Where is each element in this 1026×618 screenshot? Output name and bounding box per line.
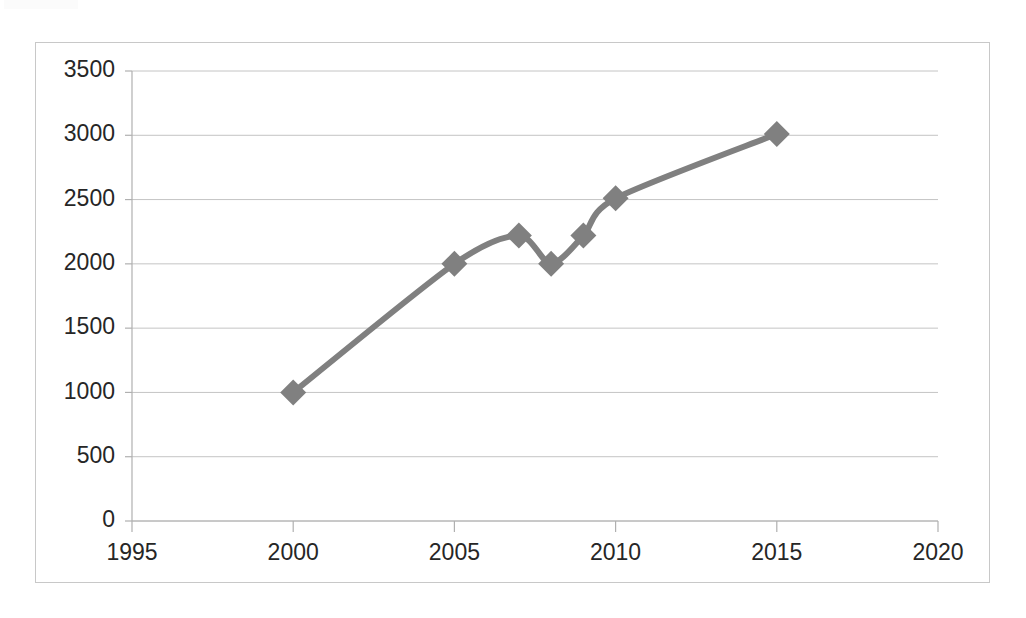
- chart-frame: 0500100015002000250030003500 19952000200…: [35, 42, 990, 583]
- y-axis-tick-label: 1500: [64, 313, 115, 339]
- y-axis-tick-label: 500: [77, 442, 115, 468]
- data-series: [280, 121, 790, 405]
- y-axis-tick-label: 2500: [64, 185, 115, 211]
- x-axis-tick-label: 2000: [268, 539, 319, 565]
- y-axis-tick-label: 0: [102, 506, 115, 532]
- x-axis-tick-label: 2020: [912, 539, 963, 565]
- x-axis-tick-label: 2015: [751, 539, 802, 565]
- y-axis-tick-label: 3500: [64, 56, 115, 82]
- x-axis: [132, 521, 938, 532]
- y-axis-tick-label: 1000: [64, 378, 115, 404]
- x-axis-tick-label: 2010: [590, 539, 641, 565]
- data-point-marker: [764, 121, 790, 147]
- gridlines: [132, 71, 938, 521]
- scan-artifact: [4, 0, 78, 9]
- data-point-marker: [506, 223, 532, 249]
- x-axis-tick-labels: 199520002005201020152020: [106, 539, 963, 565]
- y-axis-tick-label: 2000: [64, 249, 115, 275]
- y-axis: [125, 71, 132, 521]
- line-chart: 0500100015002000250030003500 19952000200…: [36, 43, 989, 582]
- x-axis-tick-label: 1995: [106, 539, 157, 565]
- y-axis-tick-label: 3000: [64, 120, 115, 146]
- x-axis-tick-label: 2005: [429, 539, 480, 565]
- series-line: [293, 134, 777, 392]
- y-axis-tick-labels: 0500100015002000250030003500: [64, 56, 115, 532]
